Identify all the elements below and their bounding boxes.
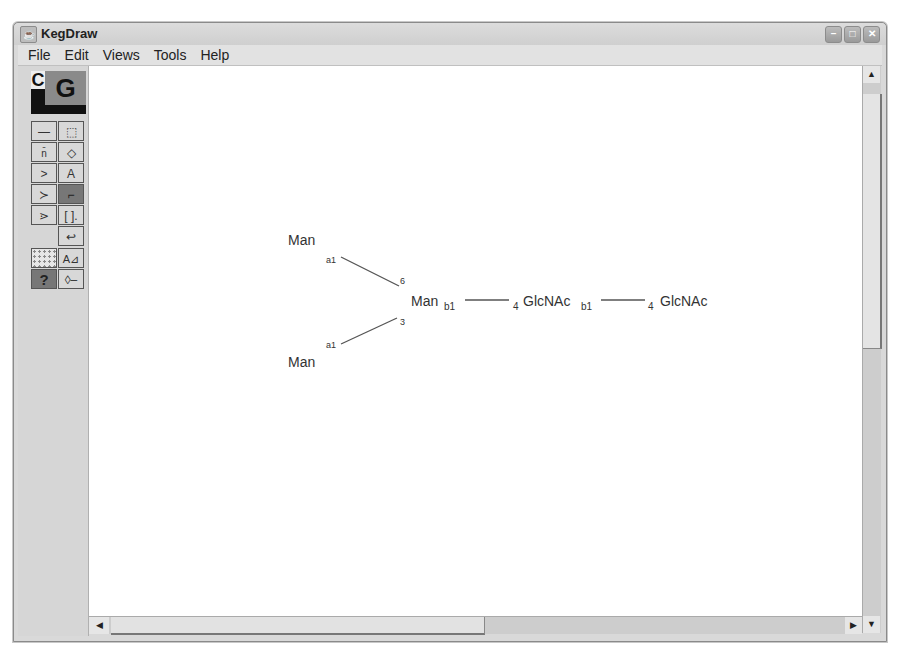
bracket-bond-icon: ⌐ xyxy=(67,188,74,202)
eraser-tool[interactable]: ◇ xyxy=(58,142,84,162)
glycan-node-man-core[interactable]: Man b1 xyxy=(411,293,456,312)
scroll-right-button[interactable]: ▶ xyxy=(845,617,862,634)
anomer-label: b1 xyxy=(444,301,456,312)
anomer-label: a1 xyxy=(326,340,336,350)
grid-tool[interactable] xyxy=(31,248,57,268)
undo-tool[interactable]: ↩ xyxy=(58,226,84,246)
position-label: 4 xyxy=(513,301,519,312)
n-bond-icon: n̄ xyxy=(41,148,47,159)
branch-icon: > xyxy=(40,167,47,181)
align-icon: A⊿ xyxy=(63,253,79,265)
glycan-node-man-top[interactable]: Man xyxy=(288,232,315,248)
scroll-left-button[interactable]: ◀ xyxy=(89,617,109,634)
single-bond-tool[interactable]: — xyxy=(31,121,57,141)
triple-branch-icon: ⋗ xyxy=(39,209,49,223)
node-label: GlcNAc xyxy=(660,293,707,309)
maximize-button[interactable]: □ xyxy=(844,26,861,43)
text-icon: A xyxy=(67,167,75,181)
glycan-mode-button[interactable]: G xyxy=(45,71,86,105)
menu-edit[interactable]: Edit xyxy=(58,47,96,63)
select-icon: ⬚ xyxy=(66,125,77,139)
glycan-node-man-bottom[interactable]: Man xyxy=(288,354,315,370)
single-bond-icon: — xyxy=(38,125,50,139)
position-label: 3 xyxy=(400,317,405,327)
vertical-scrollbar[interactable]: ▲ ▼ xyxy=(862,66,881,633)
position-label: 6 xyxy=(400,276,405,286)
node-label: Man xyxy=(288,354,315,370)
n-bond-tool[interactable]: n̄ xyxy=(31,142,57,162)
menu-bar: File Edit Views Tools Help xyxy=(18,45,882,66)
help-icon: ? xyxy=(39,271,48,288)
help-tool[interactable]: ? xyxy=(31,269,57,289)
align-tool[interactable]: A⊿ xyxy=(58,248,84,268)
reducing-end-tool[interactable]: ◊– xyxy=(58,269,84,289)
horizontal-scrollbar[interactable]: ◀ ▶ xyxy=(89,616,862,634)
mode-switch[interactable]: C G xyxy=(31,71,86,114)
glycan-node-glcnac-2[interactable]: GlcNAc xyxy=(660,293,707,309)
eraser-icon: ◇ xyxy=(67,146,76,160)
title-bar[interactable]: ☕ KegDraw – □ ✕ xyxy=(14,23,886,45)
scroll-down-button[interactable]: ▼ xyxy=(863,616,880,633)
double-branch-tool[interactable]: ≻ xyxy=(31,184,57,204)
menu-tools[interactable]: Tools xyxy=(147,47,194,63)
anomer-label: a1 xyxy=(326,255,336,265)
horizontal-scroll-thumb[interactable] xyxy=(111,617,485,635)
chemical-mode-button[interactable]: C xyxy=(31,71,45,89)
double-branch-icon: ≻ xyxy=(39,188,49,202)
node-label: GlcNAc xyxy=(523,293,570,309)
glycosidic-bond[interactable] xyxy=(341,257,399,286)
text-tool[interactable]: A xyxy=(58,163,84,183)
node-label: Man xyxy=(288,232,315,248)
undo-icon: ↩ xyxy=(66,230,76,244)
glycosidic-bond[interactable] xyxy=(341,318,397,344)
vertical-scroll-thumb[interactable] xyxy=(863,94,882,349)
glycan-structure: Man a1 6 Man a1 3 Man b1 4 GlcNAc b1 4 xyxy=(89,66,862,616)
reducing-end-icon: ◊– xyxy=(65,273,78,287)
empty-slot xyxy=(31,226,57,246)
menu-help[interactable]: Help xyxy=(193,47,236,63)
bracket-bond-tool[interactable]: ⌐ xyxy=(58,184,84,204)
tool-grid-2: A⊿ ? ◊– xyxy=(31,248,87,290)
close-button[interactable]: ✕ xyxy=(863,26,880,43)
repeat-bracket-icon: [ ]. xyxy=(64,209,77,223)
tool-grid: — ⬚ n̄ ◇ > A ≻ ⌐ ⋗ [ ]. ↩ xyxy=(31,121,87,247)
repeat-bracket-tool[interactable]: [ ]. xyxy=(58,205,84,225)
scroll-up-button[interactable]: ▲ xyxy=(863,66,880,83)
toolbox: C G — ⬚ n̄ ◇ > A ≻ ⌐ ⋗ [ ]. xyxy=(18,66,89,636)
branch-tool[interactable]: > xyxy=(31,163,57,183)
window-title: KegDraw xyxy=(41,26,97,41)
minimize-button[interactable]: – xyxy=(825,26,842,43)
drawing-canvas[interactable]: Man a1 6 Man a1 3 Man b1 4 GlcNAc b1 4 xyxy=(89,66,862,616)
menu-views[interactable]: Views xyxy=(96,47,147,63)
triple-branch-tool[interactable]: ⋗ xyxy=(31,205,57,225)
glycan-node-glcnac-1[interactable]: GlcNAc b1 xyxy=(523,293,593,312)
menu-file[interactable]: File xyxy=(21,47,58,63)
anomer-label: b1 xyxy=(581,301,593,312)
select-tool[interactable]: ⬚ xyxy=(58,121,84,141)
kegdraw-window: ☕ KegDraw – □ ✕ File Edit Views Tools He… xyxy=(13,22,887,642)
java-app-icon: ☕ xyxy=(20,26,37,43)
position-label: 4 xyxy=(648,301,654,312)
node-label: Man xyxy=(411,293,438,309)
